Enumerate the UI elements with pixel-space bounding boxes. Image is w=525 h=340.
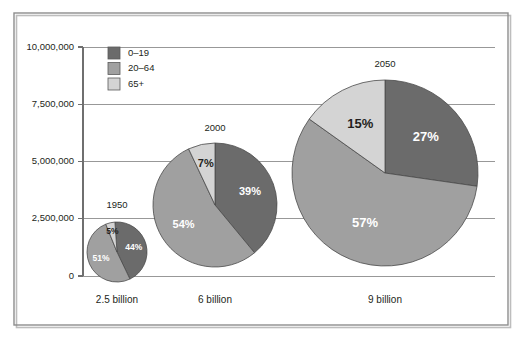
pie-title-1950: 1950 xyxy=(106,199,127,210)
pie-slice-label-2000-65+: 7% xyxy=(198,157,214,169)
pie-title-2050: 2050 xyxy=(374,58,395,69)
y-axis-tick-labels: 10,000,0007,500,0005,000,0002,500,0000 xyxy=(26,41,74,281)
y-axis-tick-label: 7,500,000 xyxy=(32,98,74,109)
x-axis-tick-label: 6 billion xyxy=(198,294,232,305)
pie-slice-label-2000-0–19: 39% xyxy=(239,185,261,197)
x-axis-tick-label: 2.5 billion xyxy=(96,294,138,305)
y-axis-tick-label: 0 xyxy=(69,270,74,281)
legend-label-0–19: 0–19 xyxy=(128,47,149,58)
population-age-structure-pie-chart-figure: 10,000,0007,500,0005,000,0002,500,0000 4… xyxy=(0,0,525,340)
legend-swatch-65+ xyxy=(108,78,120,90)
y-axis-tick-label: 5,000,000 xyxy=(32,155,74,166)
y-axis xyxy=(78,47,83,276)
y-axis-tick-label: 10,000,000 xyxy=(26,41,74,52)
legend-swatch-20–64 xyxy=(108,63,120,75)
pie-chart-2000: 39%54%7%2000 xyxy=(153,122,277,267)
pie-slice-label-1950-0–19: 44% xyxy=(125,242,142,252)
pie-slice-label-2050-65+: 15% xyxy=(347,116,373,131)
chart-legend: 0–1920–6465+ xyxy=(108,47,154,90)
pie-charts-group: 44%51%5%195039%54%7%200027%57%15%2050 xyxy=(87,58,478,282)
y-axis-tick-label: 2,500,000 xyxy=(32,212,74,223)
pie-chart-1950: 44%51%5%1950 xyxy=(87,199,147,282)
legend-label-65+: 65+ xyxy=(128,78,145,89)
pie-slice-label-1950-20–64: 51% xyxy=(93,253,110,263)
chart-canvas: 10,000,0007,500,0005,000,0002,500,0000 4… xyxy=(0,0,525,340)
legend-swatch-0–19 xyxy=(108,47,120,59)
pie-slice-label-2000-20–64: 54% xyxy=(173,218,195,230)
legend-label-20–64: 20–64 xyxy=(128,62,154,73)
pie-slice-label-1950-65+: 5% xyxy=(106,226,119,236)
pie-slice-label-2050-0–19: 27% xyxy=(413,129,439,144)
x-axis-tick-label: 9 billion xyxy=(368,294,402,305)
pie-slice-label-2050-20–64: 57% xyxy=(352,215,378,230)
pie-title-2000: 2000 xyxy=(204,122,225,133)
x-axis-tick-labels: 2.5 billion6 billion9 billion xyxy=(96,294,402,305)
pie-chart-2050: 27%57%15%2050 xyxy=(292,58,478,266)
